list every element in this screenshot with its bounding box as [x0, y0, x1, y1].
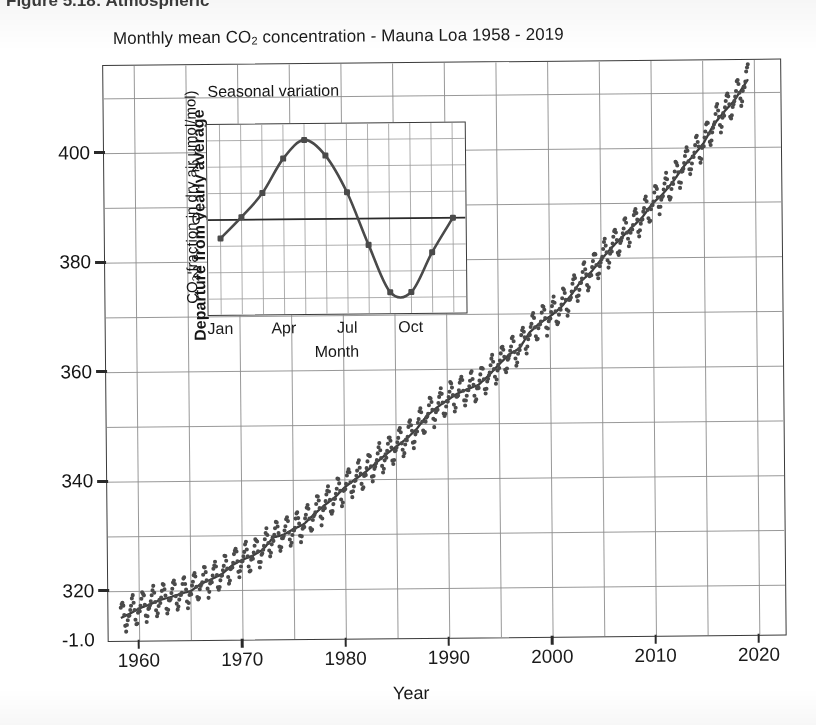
chart-title: Monthly mean CO2 concentration - Mauna L…: [113, 25, 564, 49]
inset-y-tick-label: 2: [154, 157, 200, 175]
co2-figure: Monthly mean CO2 concentration - Mauna L…: [0, 0, 816, 725]
inset-y-tick-label: -2: [155, 263, 201, 281]
x-axis-label: Year: [3, 679, 816, 708]
inset-plot-svg: [207, 123, 467, 315]
y-tick-label: 340: [1, 470, 93, 493]
x-tick-mark: [344, 638, 346, 647]
y-tick-label: 320: [2, 580, 94, 603]
inset-x-tick-label: Jan: [207, 320, 233, 338]
inset-x-tick-label: Apr: [271, 319, 296, 337]
seasonal-inset: Seasonal variation CO2 fraction in dry a…: [133, 77, 481, 365]
x-tick-label: 2000: [531, 646, 573, 668]
y-tick-mark: [96, 370, 107, 373]
y-tick-label: 400: [0, 142, 90, 165]
y-tick-mark: [95, 261, 106, 264]
x-tick-mark: [137, 640, 139, 649]
y-tick-mark: [97, 480, 108, 483]
x-tick-mark: [758, 634, 760, 643]
x-tick-mark: [551, 636, 553, 645]
x-tick-mark: [448, 637, 450, 646]
inset-title: Seasonal variation: [207, 82, 339, 101]
y-axis-origin-artifact-label: -1.0: [3, 629, 95, 652]
x-tick-mark: [654, 635, 656, 644]
chart-title-suffix: concentration - Mauna Loa 1958 - 2019: [258, 25, 564, 47]
x-tick-label: 1970: [221, 649, 263, 671]
y-tick-mark: [94, 151, 105, 154]
x-tick-label: 1980: [324, 648, 366, 670]
figure-page: Figure 5.18: Atmospheric Monthly mean CO…: [0, 0, 816, 725]
y-tick-label: 380: [0, 251, 91, 274]
x-tick-mark: [241, 639, 243, 648]
inset-x-axis-label: Month: [208, 342, 466, 362]
chart-title-prefix: Monthly mean CO: [113, 28, 252, 48]
inset-x-tick-label: Oct: [398, 318, 423, 336]
inset-y-tick-label: 0: [155, 210, 201, 228]
inset-plot-area: [206, 122, 468, 316]
x-tick-label: 1960: [118, 650, 160, 672]
x-tick-label: 2010: [634, 645, 676, 667]
x-tick-label: 1990: [428, 647, 470, 669]
x-tick-label: 2020: [738, 644, 780, 666]
inset-x-tick-label: Jul: [337, 319, 358, 337]
y-tick-mark: [98, 589, 109, 592]
y-tick-label: 360: [0, 361, 92, 384]
